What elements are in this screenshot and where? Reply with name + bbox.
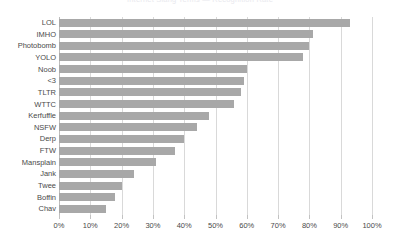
bar-kerfuffle[interactable] bbox=[59, 112, 209, 120]
bar-tltr[interactable] bbox=[59, 88, 241, 96]
bar-row[interactable] bbox=[59, 110, 372, 121]
x-tick-label: 10% bbox=[73, 221, 107, 230]
bar-row[interactable] bbox=[59, 168, 372, 179]
y-axis-label: Boffin bbox=[0, 192, 56, 203]
bar-row[interactable] bbox=[59, 203, 372, 214]
bar-chav[interactable] bbox=[59, 205, 106, 213]
bar-photobomb[interactable] bbox=[59, 42, 309, 50]
bar-row[interactable] bbox=[59, 52, 372, 63]
y-axis-category-labels: LOLIMHOPhotobombYOLONoob<3TLTRWTTCKerfuf… bbox=[0, 17, 56, 215]
bar-row[interactable] bbox=[59, 192, 372, 203]
x-tick-label: 0% bbox=[42, 221, 76, 230]
y-axis-label: Twee bbox=[0, 180, 56, 191]
bar-boffin[interactable] bbox=[59, 193, 115, 201]
y-axis-label: Mansplain bbox=[0, 157, 56, 168]
x-tick-label: 30% bbox=[136, 221, 170, 230]
bar-row[interactable] bbox=[59, 180, 372, 191]
y-axis-label: LOL bbox=[0, 17, 56, 28]
chart-title: Internet Slang Terms — Recognition Rate bbox=[0, 0, 400, 4]
bar-derp[interactable] bbox=[59, 135, 184, 143]
y-axis-label: <3 bbox=[0, 75, 56, 86]
y-axis-label: Noob bbox=[0, 64, 56, 75]
x-tick-mark bbox=[216, 215, 217, 219]
bar-3[interactable] bbox=[59, 77, 244, 85]
bar-jank[interactable] bbox=[59, 170, 134, 178]
x-tick-mark bbox=[247, 215, 248, 219]
bar-row[interactable] bbox=[59, 87, 372, 98]
bar-row[interactable] bbox=[59, 29, 372, 40]
bar-row[interactable] bbox=[59, 75, 372, 86]
x-tick-label: 80% bbox=[292, 221, 326, 230]
x-axis: 0%10%20%30%40%50%60%70%80%90%100% bbox=[0, 215, 400, 245]
x-tick-mark bbox=[372, 215, 373, 219]
y-axis-label: YOLO bbox=[0, 52, 56, 63]
y-axis-label: NSFW bbox=[0, 122, 56, 133]
gridline-100pct bbox=[372, 17, 373, 215]
x-tick-mark bbox=[341, 215, 342, 219]
x-tick-label: 60% bbox=[230, 221, 264, 230]
bar-yolo[interactable] bbox=[59, 53, 303, 61]
x-tick-label: 90% bbox=[324, 221, 358, 230]
y-axis-label: WTTC bbox=[0, 99, 56, 110]
bar-mansplain[interactable] bbox=[59, 158, 156, 166]
bar-row[interactable] bbox=[59, 145, 372, 156]
x-tick-mark bbox=[122, 215, 123, 219]
x-tick-mark bbox=[59, 215, 60, 219]
plot-area bbox=[59, 17, 372, 215]
bar-noob[interactable] bbox=[59, 65, 247, 73]
bar-imho[interactable] bbox=[59, 30, 313, 38]
x-tick-mark bbox=[153, 215, 154, 219]
y-axis-label: Derp bbox=[0, 133, 56, 144]
y-axis-label: IMHO bbox=[0, 29, 56, 40]
bar-row[interactable] bbox=[59, 99, 372, 110]
bar-row[interactable] bbox=[59, 40, 372, 51]
x-tick-mark bbox=[184, 215, 185, 219]
bar-row[interactable] bbox=[59, 157, 372, 168]
bar-twee[interactable] bbox=[59, 182, 122, 190]
x-tick-label: 100% bbox=[355, 221, 389, 230]
y-axis-label: Chav bbox=[0, 203, 56, 214]
bar-nsfw[interactable] bbox=[59, 123, 197, 131]
bars-series bbox=[59, 17, 372, 215]
y-axis-label: Photobomb bbox=[0, 40, 56, 51]
bar-row[interactable] bbox=[59, 133, 372, 144]
bar-chart: Internet Slang Terms — Recognition Rate … bbox=[0, 0, 400, 245]
x-tick-label: 20% bbox=[105, 221, 139, 230]
bar-row[interactable] bbox=[59, 17, 372, 28]
bar-lol[interactable] bbox=[59, 19, 350, 27]
x-tick-label: 40% bbox=[167, 221, 201, 230]
bar-ftw[interactable] bbox=[59, 147, 175, 155]
bar-row[interactable] bbox=[59, 64, 372, 75]
x-tick-mark bbox=[90, 215, 91, 219]
x-tick-mark bbox=[278, 215, 279, 219]
y-axis-label: Kerfuffle bbox=[0, 110, 56, 121]
y-axis-label: TLTR bbox=[0, 87, 56, 98]
x-tick-label: 50% bbox=[199, 221, 233, 230]
bar-row[interactable] bbox=[59, 122, 372, 133]
y-axis-label: FTW bbox=[0, 145, 56, 156]
bar-wttc[interactable] bbox=[59, 100, 234, 108]
x-tick-mark bbox=[309, 215, 310, 219]
y-axis-label: Jank bbox=[0, 168, 56, 179]
x-tick-label: 70% bbox=[261, 221, 295, 230]
